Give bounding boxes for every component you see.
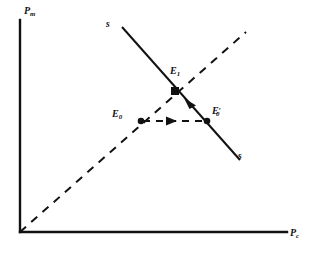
diagram-canvas (0, 0, 315, 255)
point-marker-E1 (171, 87, 179, 95)
point-label-E0-prime-sub: 0 (216, 110, 219, 117)
forty-five-degree-ray (20, 32, 246, 232)
point-label-E0-sub: 0 (119, 113, 122, 120)
supply-curve-ss (122, 27, 240, 160)
x-axis-label: Pc (290, 228, 299, 240)
supply-curve-label-bottom: s (238, 152, 242, 162)
point-marker-E0 (138, 118, 145, 125)
point-label-E0-base: E (112, 108, 119, 119)
economics-diagram: Pm Pc s s E0 E′0 E1 (0, 0, 315, 255)
horizontal-path-arrowhead (166, 117, 177, 126)
point-label-E0-prime-mark: ′ (219, 107, 221, 116)
point-label-E1-base: E (170, 65, 177, 76)
y-axis-label: Pm (24, 6, 35, 18)
point-marker-E0-prime (204, 118, 211, 125)
supply-curve-label-top: s (106, 20, 110, 30)
y-axis-label-sub: m (30, 10, 35, 17)
point-label-E1: E1 (170, 66, 180, 78)
point-label-E0-prime: E′0 (212, 106, 219, 118)
x-axis-label-sub: c (296, 232, 299, 239)
point-label-E0: E0 (112, 109, 122, 121)
point-label-E1-sub: 1 (177, 70, 180, 77)
